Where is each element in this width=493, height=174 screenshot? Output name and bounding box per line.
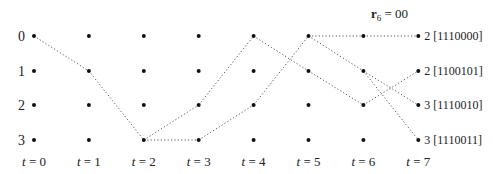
trellis-node <box>252 34 256 38</box>
trellis-node <box>307 34 311 38</box>
trellis-node <box>87 138 91 142</box>
trellis-node <box>142 69 146 73</box>
trellis-node <box>32 103 36 107</box>
trellis-edge <box>254 36 309 105</box>
trellis-edge <box>199 36 254 105</box>
path-metric-labels: 2 [1110000]2 [1100101]3 [1110010]3 [1110… <box>424 29 483 147</box>
trellis-node <box>197 34 201 38</box>
trellis-node <box>142 103 146 107</box>
trellis-node <box>32 69 36 73</box>
trellis-node <box>361 103 365 107</box>
time-label: t = 4 <box>242 154 266 169</box>
path-metric-label: 2 [1110000] <box>424 29 482 43</box>
time-label: t = 0 <box>22 154 46 169</box>
trellis-node <box>416 34 420 38</box>
trellis-edge <box>144 105 199 140</box>
trellis-node <box>197 138 201 142</box>
trellis-edge <box>309 36 364 71</box>
trellis-node <box>32 138 36 142</box>
trellis-node <box>252 69 256 73</box>
trellis-edge <box>363 71 418 140</box>
trellis-edge <box>254 36 309 71</box>
time-label: t = 5 <box>297 154 321 169</box>
time-label: t = 7 <box>406 154 430 169</box>
trellis-node <box>416 69 420 73</box>
trellis-node <box>32 34 36 38</box>
trellis-edge <box>34 36 89 71</box>
trellis-node <box>252 103 256 107</box>
time-label: t = 6 <box>351 154 375 169</box>
trellis-node <box>252 138 256 142</box>
received-symbol-title: r6 = 00 <box>371 6 408 23</box>
trellis-edge <box>309 71 364 105</box>
trellis-node <box>416 103 420 107</box>
state-label: 2 <box>18 98 25 113</box>
time-label: t = 2 <box>132 154 156 169</box>
trellis-node <box>307 103 311 107</box>
trellis-node <box>197 69 201 73</box>
state-label: 1 <box>18 64 25 79</box>
time-labels: t = 0t = 1t = 2t = 3t = 4t = 5t = 6t = 7 <box>22 154 431 169</box>
trellis-nodes <box>32 34 420 142</box>
trellis-node <box>142 34 146 38</box>
time-label: t = 3 <box>187 154 211 169</box>
trellis-node <box>87 103 91 107</box>
trellis-node <box>87 34 91 38</box>
state-labels: 0 1 2 3 <box>18 29 25 148</box>
state-label: 3 <box>18 133 25 148</box>
trellis-node <box>307 69 311 73</box>
trellis-edges <box>34 36 418 140</box>
path-metric-label: 3 [1110011] <box>424 133 482 147</box>
path-metric-label: 2 [1100101] <box>424 64 483 78</box>
time-label: t = 1 <box>77 154 101 169</box>
trellis-node <box>361 138 365 142</box>
trellis-edge <box>199 105 254 140</box>
trellis-edge <box>89 71 144 140</box>
path-metric-label: 3 [1110010] <box>424 98 482 112</box>
state-label: 0 <box>18 29 25 44</box>
trellis-node <box>416 138 420 142</box>
trellis-node <box>361 69 365 73</box>
trellis-diagram: r6 = 00 0 1 2 3 t = 0t = 1t = 2t = 3t = … <box>0 0 493 174</box>
trellis-node <box>142 138 146 142</box>
trellis-node <box>361 34 365 38</box>
trellis-node <box>197 103 201 107</box>
trellis-node <box>307 138 311 142</box>
trellis-node <box>87 69 91 73</box>
